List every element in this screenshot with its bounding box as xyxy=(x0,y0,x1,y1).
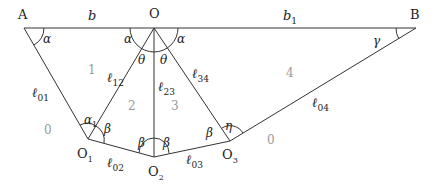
label-l12: ℓ12 xyxy=(107,71,124,88)
point-O3: O3 xyxy=(222,148,238,165)
label-l34: ℓ34 xyxy=(192,67,209,84)
angle-eta: η xyxy=(225,120,232,132)
zone-3: 3 xyxy=(171,100,179,112)
label-l04: ℓ04 xyxy=(312,96,329,113)
angle-theta-right: θ xyxy=(160,54,167,66)
point-O2: O2 xyxy=(148,165,164,182)
label-b1: b1 xyxy=(283,9,297,26)
zone-0-left: 0 xyxy=(44,124,52,136)
angle-beta-O2-right: β xyxy=(163,137,170,149)
velocity-field-diagram: A O B O1 O2 O3 b b1 ℓ01 ℓ12 ℓ23 ℓ34 ℓ02 … xyxy=(0,0,442,186)
label-l01: ℓ01 xyxy=(32,86,49,103)
zone-2: 2 xyxy=(128,100,136,112)
zone-0-right: 0 xyxy=(267,134,275,146)
line-l01 xyxy=(24,28,88,139)
angle-alpha-A: α xyxy=(43,33,51,45)
point-O1: O1 xyxy=(77,147,93,164)
angle-gamma: γ xyxy=(373,35,380,47)
angle-theta-left: θ xyxy=(138,54,145,66)
zone-1: 1 xyxy=(88,64,96,76)
line-l04 xyxy=(230,28,416,141)
angle-beta-O2-left: β xyxy=(138,137,145,149)
angle-beta-O1: β xyxy=(104,123,111,135)
zone-4: 4 xyxy=(286,67,294,79)
arc-gamma xyxy=(396,28,399,39)
diagram-lines xyxy=(0,0,442,186)
point-O: O xyxy=(149,7,160,20)
angle-alpha1: α1 xyxy=(84,114,97,129)
point-B: B xyxy=(410,8,420,21)
label-l03: ℓ03 xyxy=(186,153,203,170)
angle-beta-O3: β xyxy=(206,127,213,139)
point-A: A xyxy=(18,8,27,21)
label-l02: ℓ02 xyxy=(107,156,124,173)
label-b: b xyxy=(88,9,96,22)
label-l23: ℓ23 xyxy=(158,80,175,97)
angle-alpha-O-right: α xyxy=(177,33,185,45)
angle-alpha-O-left: α xyxy=(124,33,132,45)
